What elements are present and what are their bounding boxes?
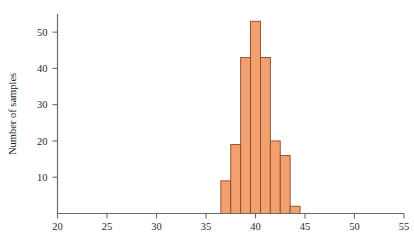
x-tick-label: 20 xyxy=(52,221,63,232)
histogram-bar xyxy=(251,21,261,213)
x-tick-label: 50 xyxy=(349,221,360,232)
x-axis-ticks: 2025303540455055 xyxy=(52,214,409,232)
y-tick-label: 30 xyxy=(37,99,48,110)
histogram-bar xyxy=(280,155,290,213)
x-tick-label: 25 xyxy=(102,221,113,232)
x-tick-label: 30 xyxy=(151,221,162,232)
y-axis-ticks: 1020304050 xyxy=(37,27,58,183)
x-tick-label: 40 xyxy=(250,221,261,232)
histogram-bar xyxy=(290,206,300,213)
histogram-bar xyxy=(260,58,270,214)
histogram-bar xyxy=(241,58,251,214)
y-axis-title: Number of samples xyxy=(7,73,18,155)
y-tick-label: 10 xyxy=(37,172,48,183)
x-tick-label: 35 xyxy=(201,221,212,232)
histogram-bar xyxy=(270,141,280,214)
y-tick-label: 50 xyxy=(37,27,48,38)
histogram-bar xyxy=(231,145,241,214)
y-tick-label: 40 xyxy=(37,63,48,74)
histogram-chart: 1020304050 2025303540455055 Number of sa… xyxy=(0,0,414,237)
bars-group xyxy=(221,21,300,213)
y-tick-label: 20 xyxy=(37,136,48,147)
chart-canvas: 1020304050 2025303540455055 Number of sa… xyxy=(0,0,414,237)
x-tick-label: 45 xyxy=(300,221,311,232)
histogram-bar xyxy=(221,181,231,214)
x-tick-label: 55 xyxy=(399,221,410,232)
